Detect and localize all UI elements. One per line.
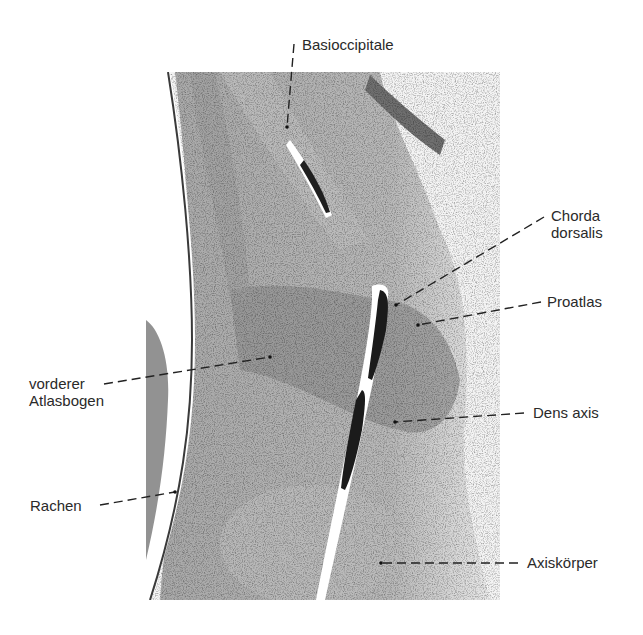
label-axiskoerper: Axiskörper bbox=[527, 554, 598, 571]
label-text: dorsalis bbox=[551, 224, 603, 241]
label-text: Axiskörper bbox=[527, 554, 598, 571]
label-chorda-dorsalis: Chorda dorsalis bbox=[551, 207, 603, 241]
label-basioccipitale: Basioccipitale bbox=[302, 36, 394, 53]
label-proatlas: Proatlas bbox=[547, 293, 602, 310]
label-text: vorderer bbox=[29, 375, 104, 392]
micrograph-image bbox=[146, 72, 500, 605]
micrograph-figure bbox=[0, 0, 643, 635]
label-text: Chorda bbox=[551, 207, 603, 224]
label-vorderer-atlasbogen: vorderer Atlasbogen bbox=[29, 375, 104, 409]
label-dens-axis: Dens axis bbox=[533, 404, 599, 421]
label-text: Atlasbogen bbox=[29, 392, 104, 409]
label-text: Dens axis bbox=[533, 404, 599, 421]
label-rachen: Rachen bbox=[30, 497, 82, 514]
label-text: Basioccipitale bbox=[302, 36, 394, 53]
label-text: Proatlas bbox=[547, 293, 602, 310]
label-text: Rachen bbox=[30, 497, 82, 514]
